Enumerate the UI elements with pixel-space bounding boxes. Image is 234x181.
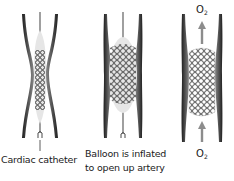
label-balloon-line1: Balloon is inflated bbox=[85, 149, 166, 159]
collapsed-stent bbox=[35, 50, 45, 110]
o2-bottom-symbol: O bbox=[196, 148, 204, 159]
panel-catheter bbox=[22, 12, 58, 151]
arrow-up-bottom-icon bbox=[198, 121, 206, 142]
artery-wall-right bbox=[215, 14, 222, 142]
artery-wall-left bbox=[22, 14, 34, 138]
label-o2-top: O2 bbox=[196, 5, 208, 16]
o2-top-symbol: O bbox=[196, 4, 204, 15]
o2-bottom-subscript: 2 bbox=[204, 153, 208, 160]
arrow-up-top-icon bbox=[198, 21, 206, 44]
expanded-stent bbox=[189, 48, 215, 116]
label-balloon-line2: to open up artery bbox=[85, 163, 165, 173]
o2-top-subscript: 2 bbox=[204, 9, 208, 16]
label-o2-bottom: O2 bbox=[196, 149, 208, 160]
artery-wall-right bbox=[46, 14, 58, 138]
expanded-stent bbox=[110, 44, 136, 104]
panel-stent bbox=[182, 14, 223, 142]
label-cardiac-catheter: Cardiac catheter bbox=[1, 155, 77, 165]
artery-wall-left bbox=[182, 14, 189, 142]
panel-inflated bbox=[104, 12, 143, 138]
